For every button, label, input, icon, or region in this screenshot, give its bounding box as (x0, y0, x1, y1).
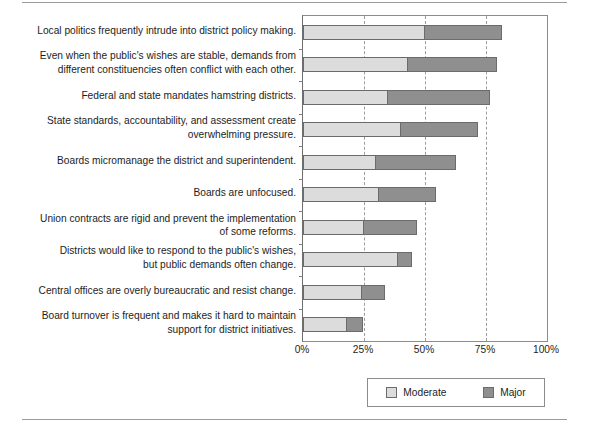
bar-segment-moderate (303, 252, 398, 267)
category-label-column: Local politics frequently intrude into d… (14, 15, 296, 340)
bar-segment-moderate (303, 317, 347, 332)
bar-segment-major (375, 155, 456, 170)
category-label: Federal and state mandates hamstring dis… (14, 89, 296, 103)
x-tick-label-75: 75% (475, 344, 495, 355)
category-label: State standards, accountability, and ass… (14, 114, 296, 141)
legend-swatch-major (483, 387, 494, 398)
bar-segment-moderate (303, 25, 425, 40)
y-axis-tick (299, 81, 303, 82)
stacked-bar-chart: Local politics frequently intrude into d… (0, 0, 589, 437)
plot-area (302, 15, 548, 342)
bar-segment-moderate (303, 285, 362, 300)
bar-segment-major (400, 122, 478, 137)
bar-segment-major (361, 285, 385, 300)
bar-segment-major (424, 25, 502, 40)
bar-stack (303, 187, 436, 202)
y-axis-tick (299, 211, 303, 212)
bar-stack (303, 220, 417, 235)
x-axis-tick-labels: 0%25%50%75%100% (280, 344, 580, 360)
legend-entry-moderate: Moderate (386, 387, 446, 398)
category-label: Boards are unfocused. (14, 186, 296, 200)
category-label: Central offices are overly bureaucratic … (14, 284, 296, 298)
bar-stack (303, 25, 502, 40)
legend-label-moderate: Moderate (403, 387, 446, 398)
y-axis-tick (299, 179, 303, 180)
bar-segment-major (407, 57, 497, 72)
y-axis-tick (299, 309, 303, 310)
bar-segment-major (346, 317, 363, 332)
y-axis-tick (299, 244, 303, 245)
bar-stack (303, 317, 363, 332)
x-tick-label-25: 25% (353, 344, 373, 355)
bar-stack (303, 57, 497, 72)
bar-segment-moderate (303, 57, 408, 72)
bar-stack (303, 285, 385, 300)
legend-entry-major: Major (483, 387, 525, 398)
bar-stack (303, 252, 412, 267)
bar-stack (303, 155, 456, 170)
bar-segment-moderate (303, 90, 388, 105)
bar-segment-moderate (303, 220, 364, 235)
bar-segment-major (378, 187, 437, 202)
y-axis-tick (299, 49, 303, 50)
bar-segment-moderate (303, 155, 376, 170)
bar-segment-major (387, 90, 489, 105)
category-label: Even when the public's wishes are stable… (14, 49, 296, 76)
bar-stack (303, 90, 490, 105)
chart-legend: Moderate Major (367, 378, 545, 407)
category-label: Union contracts are rigid and prevent th… (14, 212, 296, 239)
x-tick-label-50: 50% (414, 344, 434, 355)
bar-segment-moderate (303, 122, 401, 137)
bar-segment-major (363, 220, 417, 235)
category-label: Local politics frequently intrude into d… (14, 24, 296, 38)
legend-swatch-moderate (386, 387, 397, 398)
x-tick-label-0: 0% (295, 344, 310, 355)
category-label: Board turnover is frequent and makes it … (14, 309, 296, 336)
category-label: Boards micromanage the district and supe… (14, 154, 296, 168)
category-label: Districts would like to respond to the p… (14, 244, 296, 271)
y-axis-tick (299, 146, 303, 147)
legend-label-major: Major (500, 387, 525, 398)
y-axis-tick (299, 114, 303, 115)
bar-segment-major (397, 252, 412, 267)
bar-segment-moderate (303, 187, 379, 202)
bar-stack (303, 122, 478, 137)
x-tick-label-100: 100% (533, 344, 559, 355)
y-axis-tick (299, 276, 303, 277)
